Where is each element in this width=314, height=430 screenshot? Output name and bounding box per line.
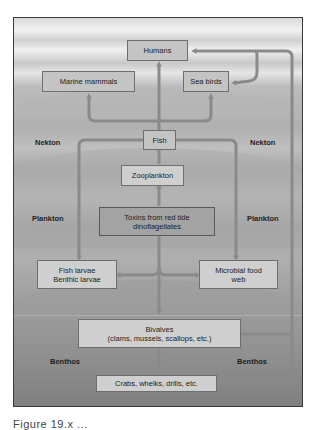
zone-label-nekton-right: Nekton bbox=[250, 138, 275, 147]
node-toxins-line1: Toxins from red tide bbox=[124, 213, 189, 222]
zone-label-plankton-left: Plankton bbox=[32, 214, 64, 223]
node-humans: Humans bbox=[127, 40, 188, 61]
node-microbial-line2: web bbox=[232, 275, 246, 284]
node-microbial-line1: Microbial food bbox=[215, 266, 262, 275]
node-toxins: Toxins from red tide dinoflagellates bbox=[99, 207, 215, 236]
node-bivalves: Bivalves (clams, mussels, scallops, etc.… bbox=[78, 319, 241, 348]
zone-label-benthos-right: Benthos bbox=[237, 357, 267, 366]
node-zooplankton: Zooplankton bbox=[121, 165, 184, 186]
node-crabs-label: Crabs, whelks, drills, etc. bbox=[115, 379, 198, 388]
node-fish: Fish bbox=[143, 130, 176, 150]
figure-caption: Figure 19.x ... bbox=[13, 418, 88, 430]
node-sea-birds-label: Sea birds bbox=[190, 77, 222, 86]
node-humans-label: Humans bbox=[144, 46, 172, 55]
node-microbial-food-web: Microbial food web bbox=[199, 260, 278, 289]
zone-label-benthos-left: Benthos bbox=[50, 357, 80, 366]
node-bivalves-line2: (clams, mussels, scallops, etc.) bbox=[108, 334, 212, 343]
node-sea-birds: Sea birds bbox=[183, 71, 229, 92]
node-fish-larvae-line1: Fish larvae bbox=[59, 266, 96, 275]
zone-label-plankton-right: Plankton bbox=[247, 214, 279, 223]
node-crabs: Crabs, whelks, drills, etc. bbox=[96, 375, 217, 392]
node-fish-larvae: Fish larvae Benthic larvae bbox=[37, 260, 117, 289]
node-bivalves-line1: Bivalves bbox=[146, 325, 174, 334]
node-marine-mammals: Marine mammals bbox=[42, 71, 135, 92]
node-toxins-line2: dinoflagellates bbox=[133, 222, 181, 231]
node-fish-label: Fish bbox=[152, 136, 166, 145]
node-marine-mammals-label: Marine mammals bbox=[60, 77, 118, 86]
node-zooplankton-label: Zooplankton bbox=[132, 171, 173, 180]
zone-label-nekton-left: Nekton bbox=[35, 138, 60, 147]
node-fish-larvae-line2: Benthic larvae bbox=[53, 275, 101, 284]
